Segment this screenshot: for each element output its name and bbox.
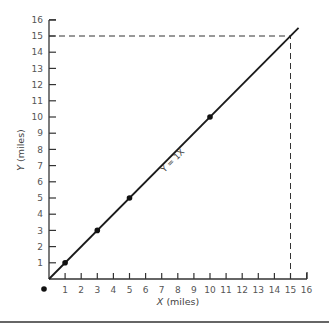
y-axis-title: Y (miles) <box>15 129 26 171</box>
data-point <box>207 114 213 120</box>
data-point <box>62 260 68 266</box>
x-tick-label: 14 <box>269 285 281 295</box>
y-tick-label: 8 <box>37 145 43 155</box>
x-tick-label: 5 <box>127 285 133 295</box>
x-tick-label: 11 <box>220 285 231 295</box>
x-tick-label: 6 <box>143 285 149 295</box>
y-tick-label: 3 <box>37 226 43 236</box>
x-tick-label: 15 <box>285 285 296 295</box>
x-tick-label: 7 <box>159 285 165 295</box>
data-point <box>95 228 101 234</box>
y-tick-label: 15 <box>32 31 43 41</box>
y-tick-label: 5 <box>37 193 43 203</box>
x-tick-label: 13 <box>253 285 264 295</box>
y-tick-label: 6 <box>37 177 43 187</box>
x-tick-label: 1 <box>62 285 68 295</box>
x-axis-ticks: 12345678910111213141516 <box>62 273 312 295</box>
y-tick-label: 16 <box>32 15 44 25</box>
x-tick-label: 3 <box>94 285 100 295</box>
chart: 12345678910111213141516 1234567891011121… <box>0 0 329 327</box>
y-tick-label: 14 <box>32 47 44 57</box>
x-tick-label: 8 <box>175 285 181 295</box>
x-tick-label: 12 <box>236 285 247 295</box>
x-tick-label: 16 <box>301 285 313 295</box>
y-tick-label: 10 <box>32 112 44 122</box>
origin-dot <box>41 286 47 292</box>
y-tick-label: 11 <box>32 96 43 106</box>
y-tick-label: 7 <box>37 161 43 171</box>
x-tick-label: 2 <box>78 285 84 295</box>
y-tick-label: 13 <box>32 64 43 74</box>
x-axis-title: X (miles) <box>156 296 199 307</box>
y-tick-label: 2 <box>37 242 43 252</box>
x-tick-label: 10 <box>204 285 216 295</box>
y-tick-label: 4 <box>37 209 43 219</box>
y-tick-label: 1 <box>37 258 43 268</box>
data-point <box>127 195 133 201</box>
y-axis-ticks: 12345678910111213141516 <box>32 15 56 268</box>
x-tick-label: 9 <box>191 285 197 295</box>
line-label: Y = 1X <box>158 146 186 174</box>
y-tick-label: 12 <box>32 80 43 90</box>
x-tick-label: 4 <box>111 285 117 295</box>
y-tick-label: 9 <box>37 128 43 138</box>
